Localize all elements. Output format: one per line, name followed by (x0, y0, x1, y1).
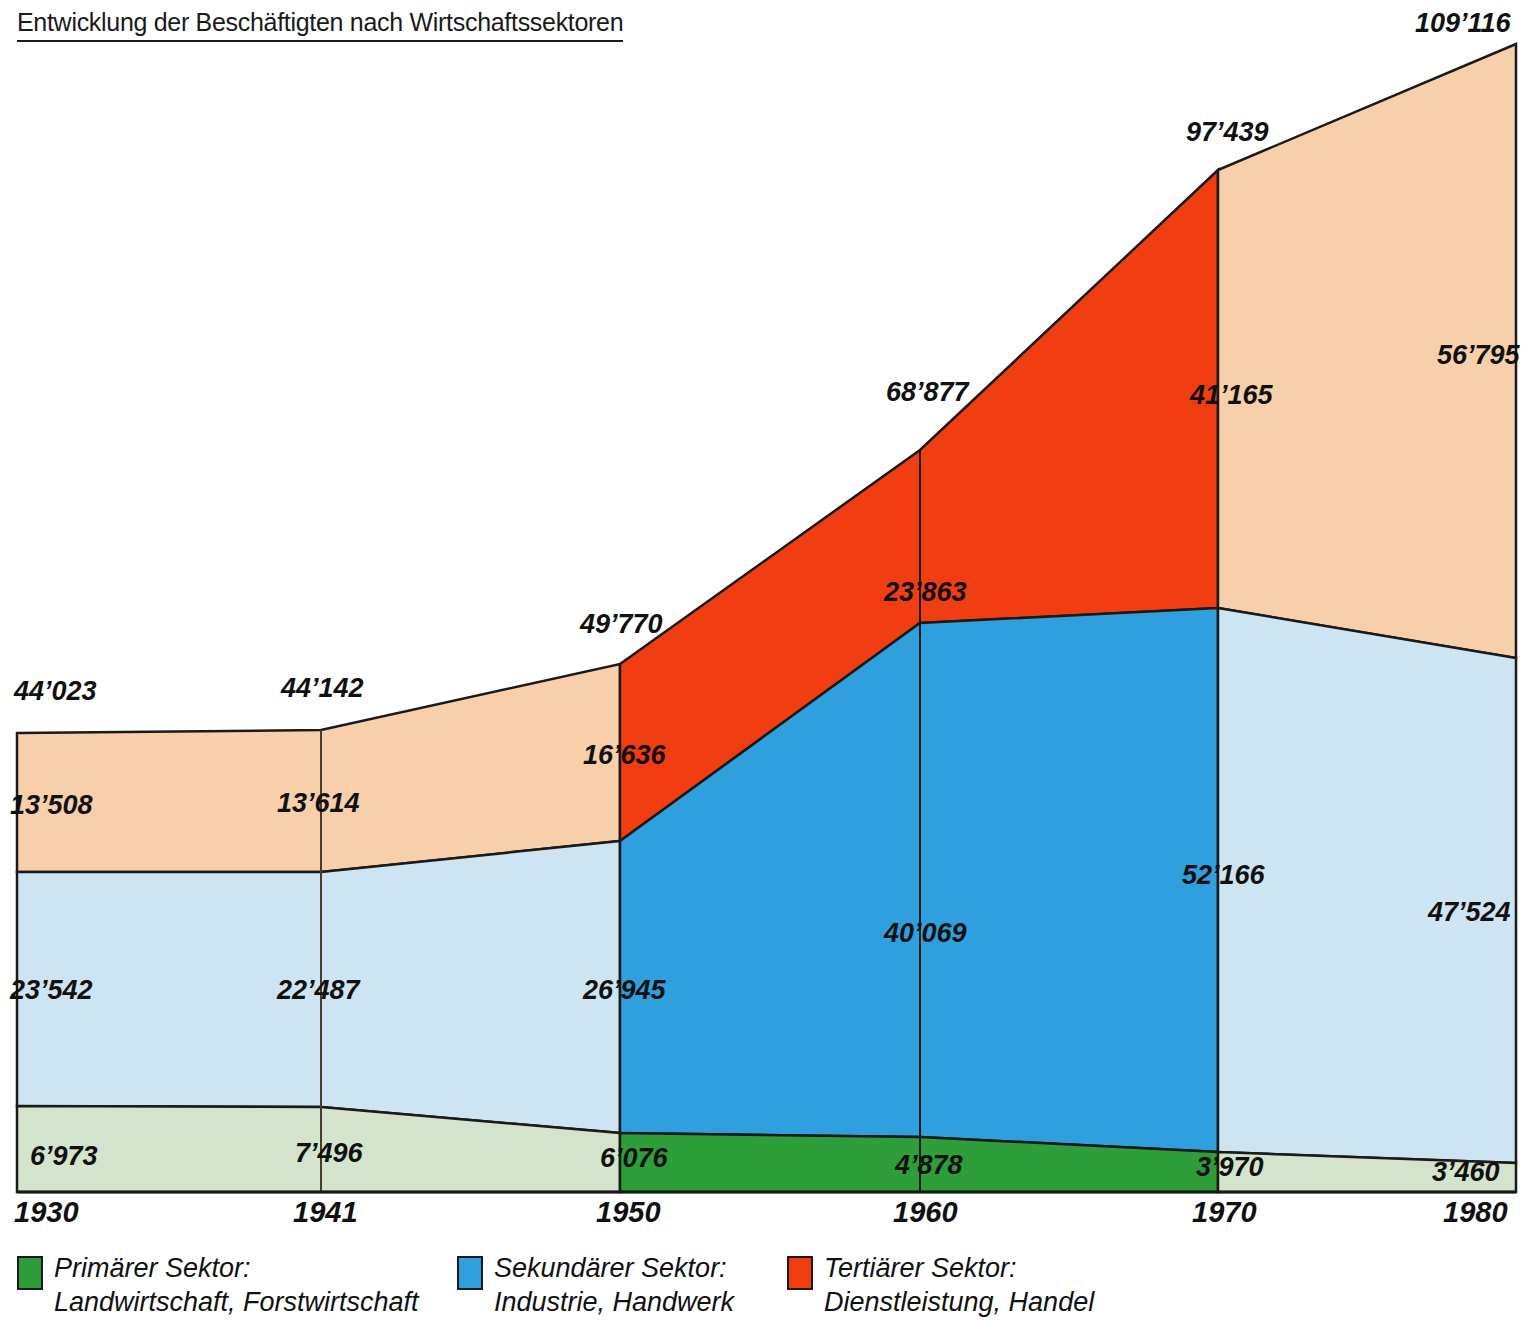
legend-item-primary: Primärer Sektor: Landwirtschaft, Forstwi… (17, 1252, 457, 1320)
legend-label-secondary-line1: Sekundärer Sektor: (494, 1252, 734, 1286)
legend-label-secondary-line2: Industrie, Handwerk (494, 1286, 734, 1320)
secondary-label-1941: 22’487 (277, 975, 360, 1006)
primary-label-1941: 7’496 (295, 1138, 363, 1169)
secondary-label-1950: 26’945 (583, 975, 666, 1006)
tertiary-label-1960: 23’863 (884, 577, 967, 608)
primary-label-1950: 6’076 (600, 1143, 668, 1174)
legend-label-primary-line1: Primärer Sektor: (54, 1252, 419, 1286)
total-label-1950: 49’770 (580, 609, 663, 640)
primary-label-1970: 3’970 (1196, 1152, 1264, 1183)
legend-swatch-primary (17, 1256, 43, 1290)
primary-label-1930: 6’973 (30, 1141, 98, 1172)
tertiary-label-1930: 13’508 (10, 790, 93, 821)
total-label-1970: 97’439 (1186, 117, 1269, 148)
year-label-1980: 1980 (1443, 1196, 1508, 1229)
secondary-label-1970: 52’166 (1182, 860, 1265, 891)
legend-label-primary: Primärer Sektor: Landwirtschaft, Forstwi… (54, 1252, 419, 1320)
year-label-1970: 1970 (1192, 1196, 1257, 1229)
secondary-label-1960: 40’069 (884, 918, 967, 949)
year-label-1950: 1950 (596, 1196, 661, 1229)
total-label-1941: 44’142 (281, 673, 364, 704)
legend-item-secondary: Sekundärer Sektor: Industrie, Handwerk (457, 1252, 787, 1320)
total-label-1980: 109’116 (1415, 8, 1511, 39)
legend-label-secondary: Sekundärer Sektor: Industrie, Handwerk (494, 1252, 734, 1320)
tertiary-label-1980: 56’795 (1437, 340, 1520, 371)
year-label-1960: 1960 (893, 1196, 958, 1229)
legend-label-tertiary-line1: Tertiärer Sektor: (824, 1252, 1094, 1286)
legend-swatch-tertiary (787, 1256, 813, 1290)
tertiary-label-1970: 41’165 (1190, 380, 1273, 411)
primary-label-1960: 4’878 (895, 1150, 963, 1181)
legend-item-tertiary: Tertiärer Sektor: Dienstleistung, Handel (787, 1252, 1147, 1320)
legend-label-tertiary: Tertiärer Sektor: Dienstleistung, Handel (824, 1252, 1094, 1320)
year-label-1941: 1941 (293, 1196, 358, 1229)
page-title: Entwicklung der Beschäftigten nach Wirts… (17, 8, 623, 42)
legend-swatch-secondary (457, 1256, 483, 1290)
total-label-1960: 68’877 (886, 377, 969, 408)
legend-label-primary-line2: Landwirtschaft, Forstwirtschaft (54, 1286, 419, 1320)
primary-label-1980: 3’460 (1432, 1157, 1500, 1188)
tertiary-label-1950: 16’636 (583, 740, 666, 771)
secondary-label-1930: 23’542 (10, 975, 93, 1006)
total-label-1930: 44’023 (14, 676, 97, 707)
year-label-1930: 1930 (14, 1196, 79, 1229)
legend-label-tertiary-line2: Dienstleistung, Handel (824, 1286, 1094, 1320)
secondary-label-1980: 47’524 (1428, 897, 1511, 928)
tertiary-label-1941: 13’614 (277, 788, 360, 819)
legend: Primärer Sektor: Landwirtschaft, Forstwi… (17, 1252, 1517, 1320)
stacked-area-chart (0, 0, 1527, 1324)
